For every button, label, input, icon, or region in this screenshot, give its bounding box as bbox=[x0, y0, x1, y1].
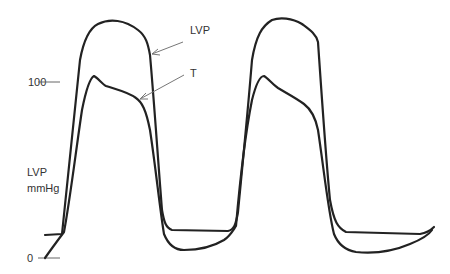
t-annotation-label: T bbox=[190, 67, 197, 79]
y-axis-title-line1: LVP bbox=[27, 166, 47, 178]
lvp-annotation-label: LVP bbox=[190, 24, 210, 36]
lvp-trace bbox=[45, 18, 434, 235]
t-annotation-arrow bbox=[140, 75, 184, 99]
chart-canvas: 100 0 LVP mmHg LVP T bbox=[0, 0, 450, 274]
t-arrowhead-icon bbox=[140, 93, 148, 99]
y-axis-title-line2: mmHg bbox=[27, 182, 59, 194]
lvp-annotation-arrow bbox=[152, 42, 183, 54]
t-trace bbox=[45, 76, 432, 258]
chart-svg: 100 0 LVP mmHg LVP T bbox=[0, 0, 450, 274]
y-tick-label-0: 0 bbox=[27, 252, 33, 264]
